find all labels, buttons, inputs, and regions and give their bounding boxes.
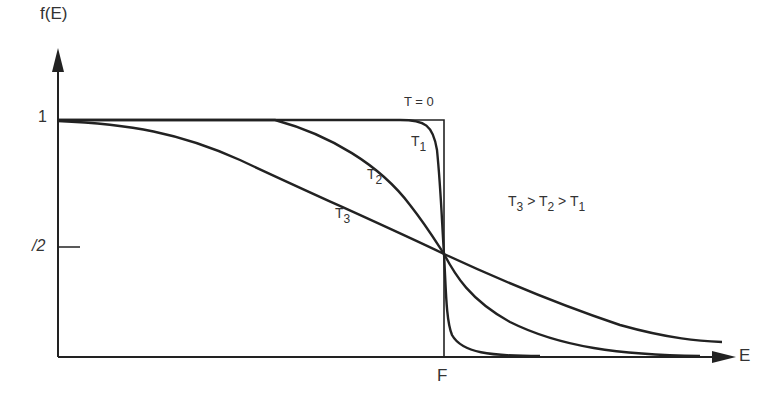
label-t0: T = 0 [404,94,434,109]
curve-t1 [58,120,540,356]
x-tick-fermi: F [437,366,447,386]
rel-gt1: > [527,193,535,209]
label-t3-main: T [335,205,344,221]
fermi-dirac-diagram: f(E) 1 /2 F E T = 0 T1 T2 T3 T3 > T2 > T… [0,0,783,394]
temperature-relation: T3 > T2 > T1 [508,193,585,209]
x-axis-arrow-icon [712,351,736,363]
rel-t3: T [508,193,517,209]
rel-t2: T [539,193,548,209]
label-t2-sub: 2 [376,173,383,187]
label-t3: T3 [335,205,350,221]
diagram-svg [0,0,783,394]
rel-t1: T [570,193,579,209]
rel-s1: 1 [579,200,586,214]
label-t1-main: T [411,133,420,149]
curve-t3 [58,121,722,342]
y-axis-arrow-icon [52,48,64,72]
rel-s3: 3 [517,200,524,214]
label-t2: T2 [367,166,382,182]
y-axis-label: f(E) [40,4,67,24]
rel-s2: 2 [548,200,555,214]
curve-t0 [58,120,444,357]
x-axis-label: E [739,346,750,366]
label-t3-sub: 3 [344,212,351,226]
label-t2-main: T [367,166,376,182]
label-t1-sub: 1 [420,140,427,154]
label-t1: T1 [411,133,426,149]
y-tick-half: /2 [32,237,45,255]
y-tick-one: 1 [38,108,47,126]
rel-gt2: > [558,193,566,209]
